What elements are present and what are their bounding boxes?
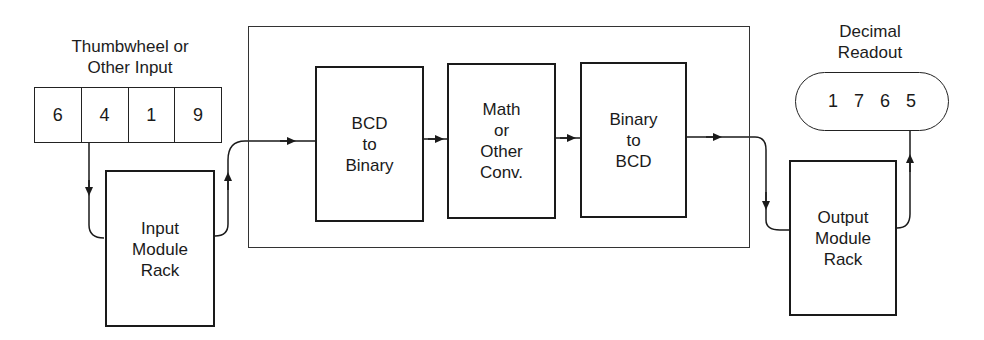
thumbwheel-digit: 6 <box>35 88 82 142</box>
output-module-rack: Output Module Rack <box>789 160 897 316</box>
input-module-rack: Input Module Rack <box>105 170 215 327</box>
connector-thumbwheel-to-input-module <box>89 142 104 238</box>
readout-digit: 1 <box>828 91 838 112</box>
binary-to-bcd-block: Binary to BCD <box>580 62 687 218</box>
thumbwheel-digit: 4 <box>82 88 129 142</box>
readout-title: Decimal Readout <box>810 21 930 63</box>
thumbwheel-digit: 1 <box>129 88 176 142</box>
math-conversion-block: Math or Other Conv. <box>447 63 556 219</box>
connector-output-module-to-readout <box>897 130 910 228</box>
readout-digit: 7 <box>854 91 864 112</box>
readout-digit: 6 <box>880 91 890 112</box>
decimal-readout: 1 7 6 5 <box>795 72 949 131</box>
thumbwheel-digit: 9 <box>175 88 221 142</box>
readout-digit: 5 <box>906 91 916 112</box>
thumbwheel-input: 6 4 1 9 <box>34 87 222 143</box>
thumbwheel-title: Thumbwheel or Other Input <box>20 36 240 78</box>
bcd-to-binary-block: BCD to Binary <box>315 66 424 222</box>
